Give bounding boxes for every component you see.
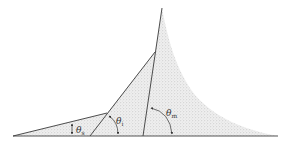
contact-angle-diagram: θs θi θm — [0, 0, 286, 145]
